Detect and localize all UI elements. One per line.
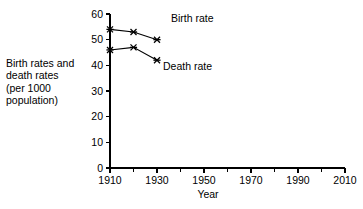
y-axis-tick-label: 40 [91,59,103,71]
chart-container: Birth rates and death rates (per 1000 po… [0,0,363,209]
y-axis-tick-label: 10 [91,136,103,148]
y-axis-tick-label: 50 [91,33,103,45]
series-label-death-rate: Death rate [163,60,212,72]
data-point-marker [130,29,137,35]
series-line-death-rate [110,47,157,60]
x-axis-tick-label: 1910 [98,174,122,186]
x-axis-title: Year [178,188,238,200]
chart-series [106,26,160,63]
x-axis-tick-label: 1930 [145,174,169,186]
chart-series-labels: Birth rateDeath rate [163,12,214,73]
y-axis-tick-label: 20 [91,110,103,122]
x-axis-tick-label: 2010 [333,174,357,186]
data-point-marker [153,37,160,43]
data-point-marker [153,57,160,63]
series-label-birth-rate: Birth rate [171,12,214,24]
x-axis-tick-label: 1970 [239,174,263,186]
x-axis-tick-label: 1990 [286,174,310,186]
y-axis-tick-label: 60 [91,8,103,20]
y-axis-tick-label: 30 [91,85,103,97]
chart-plot-area: 0102030405060191019301950197019902010 Bi… [0,0,363,209]
y-axis-tick-label: 0 [97,162,103,174]
data-point-marker [130,44,137,50]
series-line-birth-rate [110,29,157,39]
x-axis-tick-label: 1950 [192,174,216,186]
